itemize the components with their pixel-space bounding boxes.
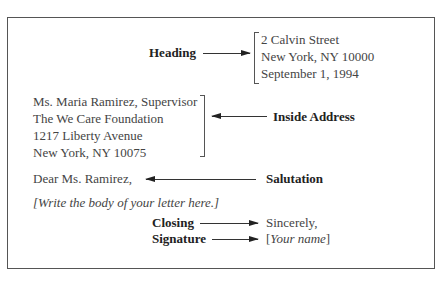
address-line: New York, NY 10075: [33, 144, 197, 161]
bracket-close: ]: [326, 231, 330, 246]
address-line: The We Care Foundation: [33, 110, 197, 127]
closing-label: Closing: [152, 214, 194, 231]
address-line: 1217 Liberty Avenue: [33, 127, 197, 144]
signature-text: [Your name]: [266, 230, 330, 247]
heading-bracket: [254, 32, 259, 84]
heading-block: 2 Calvin Street New York, NY 10000 Septe…: [261, 31, 374, 82]
heading-label: Heading: [149, 44, 196, 61]
heading-line: New York, NY 10000: [261, 48, 374, 65]
signature-arrow-icon: [212, 239, 258, 240]
address-line: Ms. Maria Ramirez, Supervisor: [33, 93, 197, 110]
heading-line: 2 Calvin Street: [261, 31, 374, 48]
salutation-label: Salutation: [266, 170, 323, 187]
heading-arrow-icon: [203, 53, 250, 54]
inside-address-label: Inside Address: [273, 108, 355, 125]
signature-label: Signature: [152, 230, 206, 247]
closing-text: Sincerely,: [266, 214, 318, 231]
inside-address-bracket: [200, 95, 205, 157]
inside-address-block: Ms. Maria Ramirez, Supervisor The We Car…: [33, 93, 197, 161]
heading-line: September 1, 1994: [261, 65, 374, 82]
body-placeholder: [Write the body of your letter here.]: [33, 194, 219, 211]
inside-address-arrow-icon: [212, 116, 267, 117]
signature-name-placeholder: Your name: [270, 231, 326, 246]
salutation-text: Dear Ms. Ramirez,: [33, 170, 132, 187]
salutation-arrow-icon: [146, 179, 256, 180]
closing-arrow-icon: [200, 223, 258, 224]
